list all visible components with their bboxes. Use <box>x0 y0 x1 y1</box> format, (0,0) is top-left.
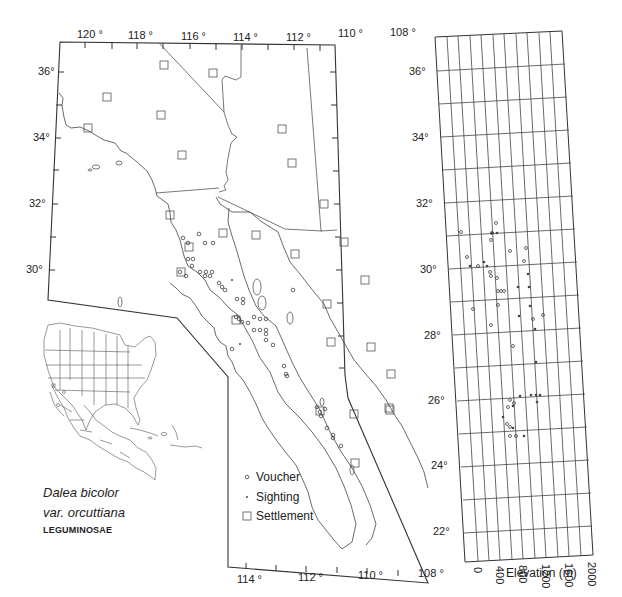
voucher-symbol-icon <box>245 475 249 479</box>
top-longitude-labels: 120 ° 118 ° 116 ° 114 ° 112 ° 110 ° 108 … <box>77 26 416 43</box>
lat-label: 32° <box>416 197 433 209</box>
lon-label: 114 ° <box>233 31 258 43</box>
lat-label: 26° <box>428 394 445 406</box>
lat-label: 24° <box>431 459 448 471</box>
elevation-voucher-points <box>460 222 545 438</box>
state-borders <box>156 43 337 231</box>
sighting-symbol-icon <box>246 496 248 498</box>
lat-label: 30° <box>26 263 43 275</box>
family-name: LEGUMINOSAE <box>43 525 125 535</box>
inset-north-america-map <box>44 323 202 480</box>
islands <box>88 161 354 475</box>
species-name: Dalea bicolor <box>43 483 125 503</box>
right-latitude-labels: 36° 34° 32° 30° 28° 26° 24° 22° <box>409 65 450 537</box>
lat-label: 32° <box>29 197 46 209</box>
lat-label: 28° <box>424 329 441 341</box>
elev-tick: 2000 <box>586 562 598 586</box>
legend-voucher: Voucher <box>256 470 300 484</box>
lat-label: 36° <box>409 65 426 77</box>
elevation-axis-label: Elevation (m) <box>506 566 577 580</box>
elevation-plot <box>435 31 593 562</box>
lat-label: 30° <box>420 263 437 275</box>
settlement-symbol-icon <box>243 512 251 520</box>
species-title-block: Dalea bicolor var. orcuttiana LEGUMINOSA… <box>43 483 125 535</box>
lon-label: 110 ° <box>358 569 383 581</box>
lat-label: 34° <box>412 131 429 143</box>
lon-label: 108 ° <box>390 26 416 38</box>
lat-label: 36° <box>38 65 55 77</box>
sighting-points <box>231 279 241 345</box>
lon-label: 110 ° <box>338 27 363 39</box>
lon-label: 116 ° <box>181 30 206 42</box>
legend-sighting: Sighting <box>256 490 299 504</box>
variety-name: var. orcuttiana <box>43 503 125 523</box>
lon-label: 112 ° <box>286 31 311 43</box>
lat-label: 34° <box>33 131 50 143</box>
lon-label: 114 ° <box>237 573 262 585</box>
settlements <box>84 61 395 467</box>
lon-label: 118 ° <box>128 29 153 41</box>
legend-settlement: Settlement <box>256 509 314 523</box>
lon-label: 120 ° <box>77 28 103 40</box>
map-legend: Voucher Sighting Settlement <box>243 470 314 523</box>
elev-tick: 400 <box>494 566 506 584</box>
lon-label: 108 ° <box>418 567 444 579</box>
lat-label: 22° <box>433 525 450 537</box>
elev-tick: 0 <box>472 567 484 573</box>
lon-label: 112 ° <box>298 571 323 583</box>
